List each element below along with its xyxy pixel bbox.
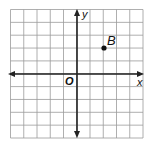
coordinate-plane: y x O B — [0, 0, 153, 144]
x-axis-label: x — [136, 76, 143, 88]
point-b-label: B — [107, 33, 116, 48]
origin-label: O — [65, 75, 74, 87]
point-b-marker — [101, 45, 106, 50]
